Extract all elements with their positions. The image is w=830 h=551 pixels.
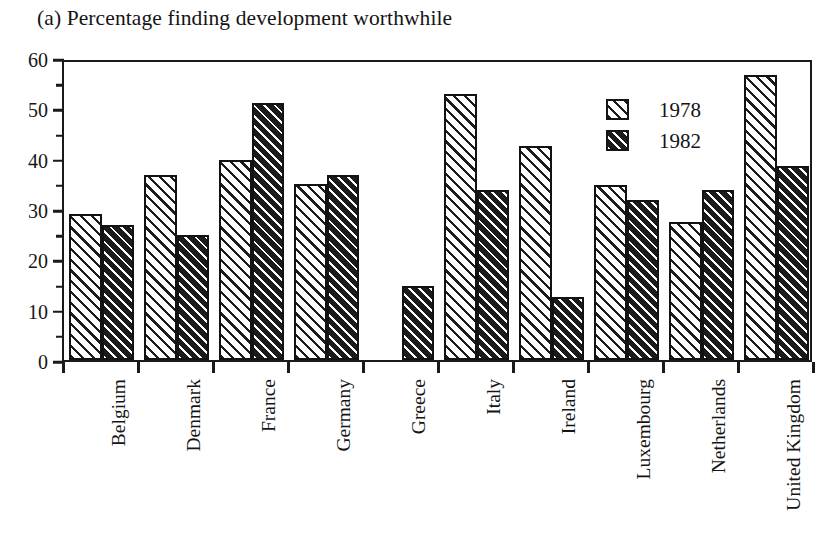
y-tick-mark-minor xyxy=(56,185,64,188)
bar xyxy=(519,146,552,360)
bar xyxy=(402,286,435,360)
bar xyxy=(777,166,810,360)
chart-title: (a) Percentage finding development worth… xyxy=(37,8,452,30)
legend-entry-1982: 1982 xyxy=(606,127,756,158)
legend-swatch-1978-icon xyxy=(606,99,629,120)
bar xyxy=(444,94,477,360)
x-tick-mark xyxy=(62,362,65,373)
legend-entry-1978: 1978 xyxy=(606,96,756,127)
y-tick-mark xyxy=(53,109,64,112)
legend-swatch-1982-icon xyxy=(606,130,629,151)
y-tick-label: 60 xyxy=(0,50,54,70)
y-tick-label: 10 xyxy=(0,302,54,322)
bar xyxy=(144,175,177,360)
x-axis-category-label: United Kingdom xyxy=(784,379,804,511)
bar xyxy=(219,160,252,360)
x-axis-category-label: Ireland xyxy=(559,379,579,434)
x-tick-mark xyxy=(437,362,440,373)
x-tick-mark xyxy=(137,362,140,373)
bar xyxy=(669,222,702,360)
bar xyxy=(594,185,627,360)
bar xyxy=(69,214,102,360)
x-tick-mark xyxy=(587,362,590,373)
y-tick-mark xyxy=(53,59,64,62)
y-tick-mark xyxy=(53,260,64,263)
bar-chart-figure: (a) Percentage finding development worth… xyxy=(0,0,830,551)
x-tick-mark xyxy=(737,362,740,373)
bar xyxy=(327,175,360,360)
x-axis-category-label: Italy xyxy=(484,379,504,415)
bar xyxy=(627,200,660,360)
x-axis-category-label: Netherlands xyxy=(709,379,729,473)
legend-label-1978: 1978 xyxy=(659,96,701,124)
x-axis-category-label: France xyxy=(259,379,279,432)
bar xyxy=(744,75,777,360)
x-tick-mark xyxy=(812,362,815,373)
x-axis-category-label: Luxembourg xyxy=(634,379,654,479)
y-tick-label: 0 xyxy=(0,352,54,372)
x-axis-category-label: Denmark xyxy=(184,379,204,452)
bar xyxy=(477,190,510,360)
x-tick-mark xyxy=(662,362,665,373)
bar xyxy=(177,235,210,360)
y-tick-mark-minor xyxy=(56,336,64,339)
bar xyxy=(294,184,327,360)
y-tick-mark-minor xyxy=(56,285,64,288)
y-tick-label: 20 xyxy=(0,251,54,271)
bar xyxy=(252,103,285,360)
y-axis: 0102030405060 xyxy=(0,48,54,378)
y-tick-mark-minor xyxy=(56,235,64,238)
y-tick-mark xyxy=(53,210,64,213)
legend-label-1982: 1982 xyxy=(659,127,701,155)
x-tick-mark xyxy=(362,362,365,373)
y-tick-label: 50 xyxy=(0,100,54,120)
x-tick-mark xyxy=(212,362,215,373)
y-tick-mark-minor xyxy=(56,134,64,137)
bar xyxy=(102,225,135,360)
y-tick-mark xyxy=(53,310,64,313)
y-tick-label: 40 xyxy=(0,151,54,171)
y-tick-mark-minor xyxy=(56,84,64,87)
x-axis-category-label: Belgium xyxy=(109,379,129,446)
y-tick-label: 30 xyxy=(0,201,54,221)
x-tick-mark xyxy=(512,362,515,373)
legend: 1978 1982 xyxy=(606,96,756,158)
bar xyxy=(702,190,735,360)
x-axis-category-label: Greece xyxy=(409,379,429,434)
y-tick-mark xyxy=(53,159,64,162)
x-axis-category-label: Germany xyxy=(334,379,354,452)
bar xyxy=(552,297,585,360)
x-tick-mark xyxy=(287,362,290,373)
